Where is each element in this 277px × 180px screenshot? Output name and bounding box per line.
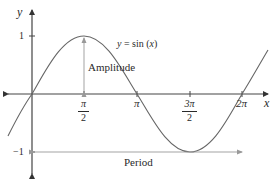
sine-diagram [0, 0, 277, 180]
amplitude-label: Amplitude [88, 62, 135, 73]
equation-middle: = sin ( [121, 38, 149, 49]
x-tick-label-pi: π [134, 98, 140, 109]
x-tick-label-pi-over-2: π 2 [78, 99, 89, 123]
y-tick-label-1: 1 [19, 31, 24, 41]
fraction-denominator: 2 [187, 113, 192, 123]
fraction-denominator: 2 [81, 113, 86, 123]
period-label: Period [124, 157, 153, 168]
fraction-numerator: π [81, 99, 86, 109]
y-axis-label: y [17, 6, 22, 18]
y-tick-label-neg1: −1 [13, 147, 24, 157]
equation-close: ) [154, 38, 157, 49]
fraction-numerator: 3π [184, 99, 194, 109]
x-tick-label-2pi: 2π [236, 98, 247, 109]
y-tick-label-neg1-value: 1 [19, 146, 24, 157]
x-axis-label: x [264, 97, 269, 109]
x-tick-label-3pi-over-2: 3π 2 [182, 99, 197, 123]
curve-equation-label: y = sin (x) [117, 39, 157, 49]
